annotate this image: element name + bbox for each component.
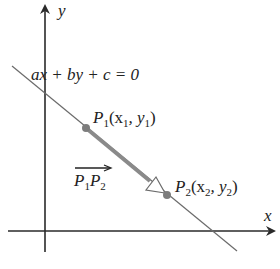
diagram: y x ax + by + c = 0 P1(x1, y1) P2(x2, y2…	[0, 0, 280, 269]
point-p1	[82, 124, 90, 132]
point-p2-label: P2(x2, y2)	[175, 178, 238, 198]
vector-label: P1P2	[74, 172, 106, 192]
y-axis-label: y	[58, 2, 66, 19]
line-equation: ax + by + c = 0	[31, 66, 139, 83]
point-p2	[163, 191, 171, 199]
point-p1-label: P1(x1, y1)	[93, 109, 156, 129]
x-axis-label: x	[264, 207, 272, 224]
diagram-canvas	[0, 0, 280, 269]
